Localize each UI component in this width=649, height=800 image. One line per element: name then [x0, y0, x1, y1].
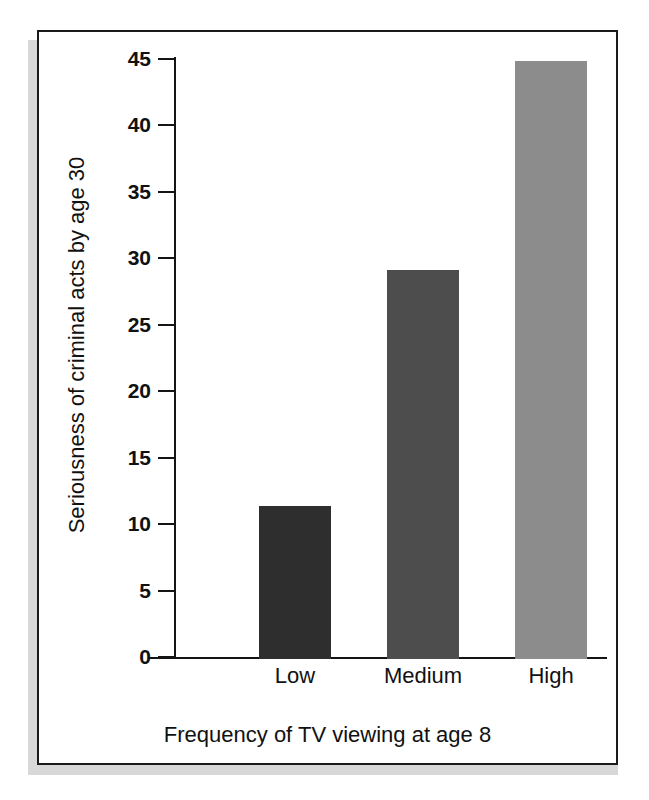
- bars-layer: [39, 32, 616, 659]
- category-label-low: Low: [225, 665, 365, 687]
- category-label-medium: Medium: [353, 665, 493, 687]
- bar-medium: [387, 270, 459, 659]
- figure-plate: 051015202530354045 LowMediumHigh Frequen…: [37, 30, 618, 765]
- y-axis-title: Seriousness of criminal acts by age 30: [64, 85, 90, 605]
- x-axis-title: Frequency of TV viewing at age 8: [39, 722, 616, 748]
- bar-low: [259, 506, 331, 659]
- bar-high: [515, 61, 587, 659]
- category-label-high: High: [481, 665, 621, 687]
- bar-chart-plot: 051015202530354045 LowMediumHigh Frequen…: [39, 32, 616, 763]
